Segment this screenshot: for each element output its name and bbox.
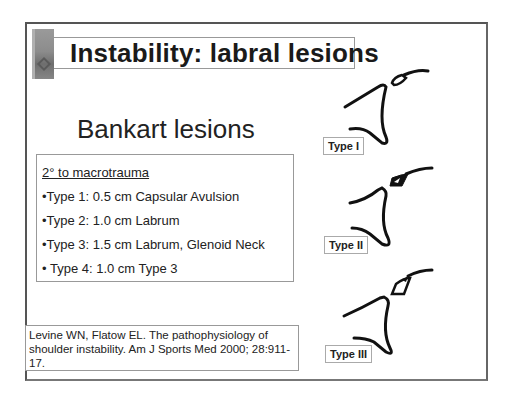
slide-title: Instability: labral lesions xyxy=(70,38,379,69)
list-heading: 2° to macrotrauma xyxy=(42,165,149,180)
type-ii-label: Type II xyxy=(324,236,368,254)
type-i-label: Type I xyxy=(323,137,364,155)
reference-text: Levine WN, Flatow EL. The pathophysiolog… xyxy=(29,328,297,370)
type-iii-label: Type III xyxy=(325,345,372,363)
list-item: •Type 2: 1.0 cm Labrum xyxy=(42,213,180,228)
diamond-ornament-icon xyxy=(37,57,51,71)
list-item: •Type 1: 0.5 cm Capsular Avulsion xyxy=(42,189,239,204)
list-item: •Type 3: 1.5 cm Labrum, Glenoid Neck xyxy=(42,237,265,252)
hand-logo-icon xyxy=(32,29,54,79)
slide-subtitle: Bankart lesions xyxy=(77,114,255,145)
list-item: • Type 4: 1.0 cm Type 3 xyxy=(42,261,178,276)
